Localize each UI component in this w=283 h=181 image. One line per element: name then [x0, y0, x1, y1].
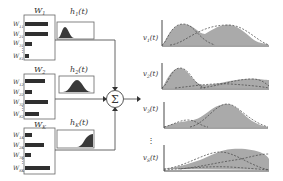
output-plot-s: vS(t)	[143, 145, 269, 171]
sum-symbol: Σ	[111, 93, 119, 106]
kernel-curve-2	[63, 80, 91, 92]
svg-text:WSK: WSK	[13, 164, 25, 173]
weight-bar	[25, 133, 32, 137]
weight-bars-1	[25, 22, 48, 58]
weight-panel-k: WK W1K W2K W3K WSK ⋮	[13, 120, 55, 174]
output-fill-3	[164, 104, 268, 127]
nmf-convolution-diagram: W1 W11 W21 W31 WS1 ⋮ h1(t) W2 W12 W22 W3…	[0, 0, 283, 181]
svg-text:W1K: W1K	[13, 131, 24, 140]
output-label-2: v2(t)	[143, 70, 158, 79]
kernel-curve-k	[77, 134, 93, 147]
output-ellipsis: ⋮	[147, 136, 155, 145]
weight-bar	[25, 90, 32, 94]
output-label-s: vS(t)	[143, 154, 159, 163]
output-fill-2	[162, 68, 269, 88]
weight-ellipsis-2: ⋮	[20, 105, 25, 111]
weight-row-labels-1: W11 W21 W31 WS1	[13, 20, 24, 61]
output-plot-1: v1(t)	[143, 20, 269, 46]
weight-title-2: W2	[34, 65, 45, 75]
weight-ellipsis-k: ⋮	[20, 158, 25, 164]
weight-title-k: WK	[34, 120, 46, 130]
weight-bar	[25, 143, 44, 147]
output-plot-3: v3(t)	[143, 102, 268, 128]
weight-panel-2: W2 W12 W22 W32 WS2 ⋮	[13, 65, 55, 119]
weight-title-1: W1	[34, 6, 45, 16]
weight-bars-2	[25, 79, 48, 116]
kernel-panel-2: h2(t)	[59, 65, 94, 93]
kernel-label-1: h1(t)	[70, 7, 88, 17]
weight-panel-1: W1 W11 W21 W31 WS1 ⋮	[13, 6, 55, 61]
weight-ellipsis-1: ⋮	[20, 47, 25, 53]
output-label-1: v1(t)	[143, 34, 158, 43]
weight-bar	[25, 153, 31, 157]
weight-bar	[25, 79, 45, 83]
weight-bars-k	[25, 133, 50, 170]
weight-bar	[25, 100, 48, 104]
output-fill-1	[162, 24, 269, 45]
kernel-curve-1	[58, 27, 74, 38]
svg-text:W12: W12	[13, 78, 24, 87]
weight-bar	[25, 42, 32, 46]
weight-bar	[25, 32, 48, 36]
kernel-panel-1: h1(t)	[57, 7, 94, 39]
output-plot-2: v2(t)	[143, 63, 269, 89]
weight-box-1	[24, 15, 55, 60]
weight-bar	[25, 112, 39, 116]
weight-row-labels-2: W12 W22 W32 WS2	[13, 78, 25, 119]
kernel-label-k: hK(t)	[70, 118, 88, 128]
sum-node: Σ	[107, 91, 124, 108]
kernel-panel-k: hK(t)	[57, 118, 94, 148]
connectors	[55, 40, 138, 150]
weight-bar	[25, 166, 50, 170]
svg-text:WS1: WS1	[13, 52, 24, 61]
kernel-label-2: h2(t)	[70, 65, 88, 75]
svg-text:W22: W22	[13, 88, 24, 97]
weight-row-labels-k: W1K W2K W3K WSK	[13, 131, 25, 173]
arrow-right-icon	[137, 96, 141, 102]
svg-text:W21: W21	[13, 30, 24, 39]
output-label-3: v3(t)	[143, 105, 158, 114]
weight-bar	[25, 54, 29, 58]
svg-text:W2K: W2K	[13, 141, 24, 150]
svg-text:W11: W11	[13, 20, 24, 29]
weight-bar	[25, 22, 48, 26]
svg-text:WS2: WS2	[13, 110, 25, 119]
